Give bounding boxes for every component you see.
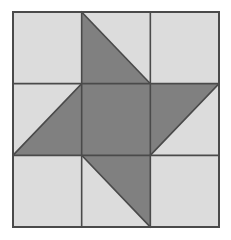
quilt-block-figure <box>0 0 231 240</box>
cell-top-left <box>13 12 82 84</box>
block-row-1 <box>13 12 219 84</box>
cell-bottom-right <box>150 155 219 227</box>
block-row-2 <box>13 84 219 156</box>
cell-middle-right <box>150 84 219 156</box>
cell-top-right <box>150 12 219 84</box>
cell-center <box>82 84 151 156</box>
cell-bottom-center <box>82 155 151 227</box>
cell-bottom-left <box>13 155 82 227</box>
quilt-block-canvas <box>0 0 231 240</box>
block-row-3 <box>13 155 219 227</box>
cell-middle-left <box>13 84 82 156</box>
cell-top-center <box>82 12 151 84</box>
